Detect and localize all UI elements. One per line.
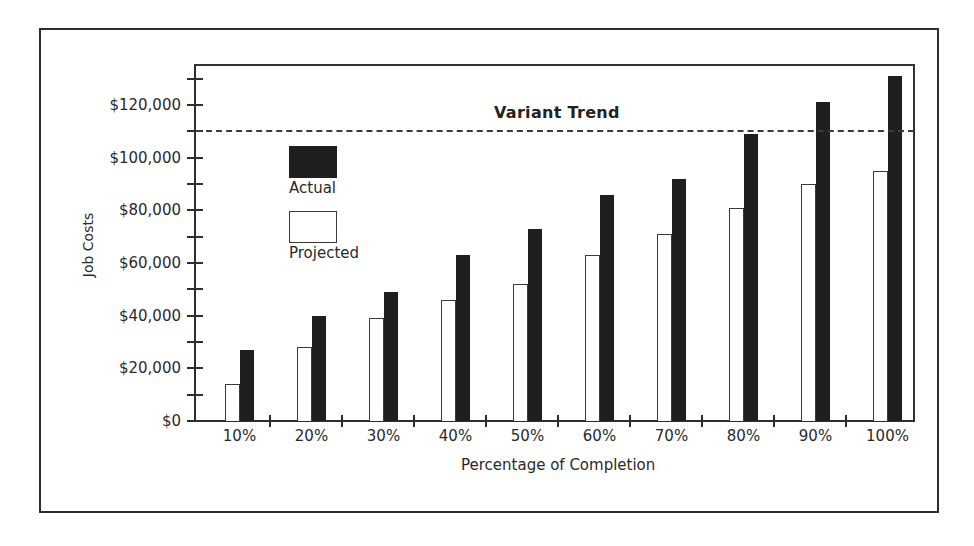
y-tick-mark xyxy=(187,78,203,80)
x-tick-label: 70% xyxy=(655,427,688,445)
y-tick-mark xyxy=(187,209,203,211)
variant-trend-label: Variant Trend xyxy=(494,103,620,122)
x-tick-mark xyxy=(701,415,703,427)
x-tick-label: 80% xyxy=(727,427,760,445)
bar-projected xyxy=(585,255,600,421)
y-tick-label: $80,000 xyxy=(119,201,181,219)
bar-actual xyxy=(672,179,687,421)
bar-actual xyxy=(816,102,831,421)
bar-actual xyxy=(888,76,903,421)
x-tick-mark xyxy=(845,415,847,427)
x-tick-mark xyxy=(557,415,559,427)
y-tick-mark xyxy=(187,394,203,396)
legend-label-projected: Projected xyxy=(289,244,359,262)
y-tick-label: $100,000 xyxy=(109,149,181,167)
bar-projected xyxy=(369,318,384,421)
y-tick-mark xyxy=(187,157,203,159)
y-tick-mark xyxy=(187,288,203,290)
legend-swatch-actual xyxy=(289,146,337,178)
x-axis-title: Percentage of Completion xyxy=(461,456,655,474)
x-tick-mark xyxy=(773,415,775,427)
bar-projected xyxy=(657,234,672,421)
bar-projected xyxy=(297,347,312,421)
y-tick-label: $0 xyxy=(162,412,181,430)
x-tick-mark xyxy=(413,415,415,427)
x-tick-label: 50% xyxy=(511,427,544,445)
bar-actual xyxy=(744,134,759,421)
x-tick-mark xyxy=(485,415,487,427)
y-tick-mark xyxy=(187,104,203,106)
y-tick-mark xyxy=(187,367,203,369)
x-tick-label: 20% xyxy=(295,427,328,445)
x-tick-label: 90% xyxy=(799,427,832,445)
x-tick-label: 40% xyxy=(439,427,472,445)
y-tick-mark xyxy=(187,183,203,185)
bar-actual xyxy=(384,292,399,421)
bar-actual xyxy=(240,350,255,421)
legend-label-actual: Actual xyxy=(289,179,336,197)
y-tick-label: $20,000 xyxy=(119,359,181,377)
bar-actual xyxy=(456,255,471,421)
x-tick-mark xyxy=(269,415,271,427)
bar-actual xyxy=(312,316,327,421)
x-tick-mark xyxy=(341,415,343,427)
bar-projected xyxy=(873,171,888,421)
bar-actual xyxy=(528,229,543,421)
x-tick-mark xyxy=(629,415,631,427)
x-tick-label: 30% xyxy=(367,427,400,445)
bar-actual xyxy=(600,195,615,421)
y-tick-mark xyxy=(187,262,203,264)
legend-swatch-projected xyxy=(289,211,337,243)
y-tick-mark xyxy=(187,420,203,422)
x-tick-label: 100% xyxy=(866,427,909,445)
x-tick-label: 60% xyxy=(583,427,616,445)
y-tick-mark xyxy=(187,315,203,317)
x-tick-label: 10% xyxy=(223,427,256,445)
y-axis-title: Job Costs xyxy=(80,213,96,277)
y-tick-mark xyxy=(187,236,203,238)
bar-projected xyxy=(441,300,456,421)
y-tick-label: $60,000 xyxy=(119,254,181,272)
bar-projected xyxy=(801,184,816,421)
bar-projected xyxy=(225,384,240,421)
bar-projected xyxy=(729,208,744,421)
y-tick-label: $40,000 xyxy=(119,307,181,325)
y-tick-mark xyxy=(187,341,203,343)
bar-projected xyxy=(513,284,528,421)
variant-trend-line xyxy=(196,130,914,132)
y-tick-label: $120,000 xyxy=(109,96,181,114)
